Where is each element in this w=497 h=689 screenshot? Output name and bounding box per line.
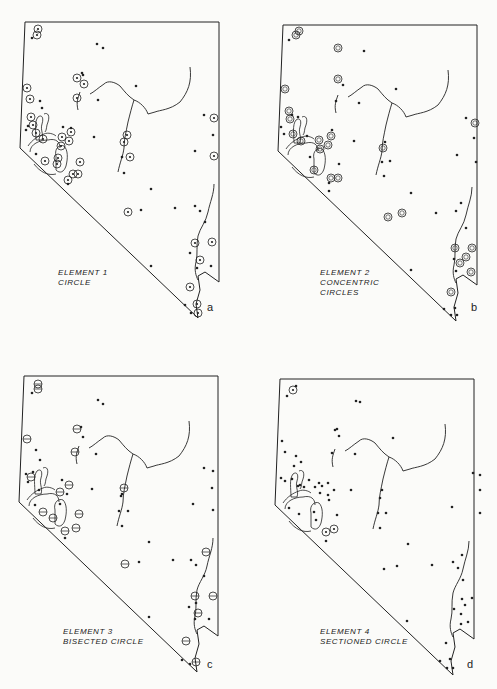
points-panel-a: [23, 25, 218, 317]
points-panel-c: [23, 380, 217, 666]
panel-d-label: ELEMENT 4 SECTIONED CIRCLE: [320, 627, 408, 647]
panel-c-letter: c: [207, 658, 213, 670]
panel-d-label-line2: SECTIONED CIRCLE: [320, 637, 408, 647]
panel-b-letter: b: [471, 301, 477, 313]
points-panel-b: [280, 27, 479, 316]
panel-b-label-line2: CONCENTRIC: [320, 278, 379, 288]
panel-a-label-line2: CIRCLE: [58, 278, 108, 288]
panel-c-label-line1: ELEMENT 3: [63, 627, 144, 637]
panel-d-letter: d: [467, 658, 473, 670]
panel-a-label: ELEMENT 1 CIRCLE: [58, 268, 108, 288]
panel-c-label-line2: BISECTED CIRCLE: [63, 637, 144, 647]
panel-d-label-line1: ELEMENT 4: [320, 627, 408, 637]
panel-c-label: ELEMENT 3 BISECTED CIRCLE: [63, 627, 144, 647]
panel-b-label-line1: ELEMENT 2: [320, 268, 379, 278]
panel-b-label: ELEMENT 2 CONCENTRIC CIRCLES: [320, 268, 379, 298]
panel-b-label-line3: CIRCLES: [320, 288, 379, 298]
panel-a-label-line1: ELEMENT 1: [58, 268, 108, 278]
map-panel-a: [0, 0, 497, 689]
panel-a-letter: a: [207, 301, 213, 313]
